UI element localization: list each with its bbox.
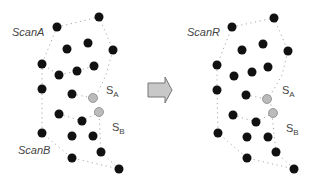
point-dot: [38, 60, 47, 69]
point-dot: [242, 91, 251, 100]
s-a-sub: A: [289, 90, 294, 99]
scan-a-boundary: [42, 17, 113, 96]
point-dot: [89, 132, 98, 141]
scan-r-label: ScanR: [187, 26, 220, 38]
point-dot: [68, 154, 77, 163]
scan-b-boundary: [42, 64, 119, 169]
s-b-sub: B: [293, 128, 298, 137]
point-dot: [229, 111, 238, 120]
point-dot: [243, 154, 252, 163]
shared-point-dot: [89, 94, 98, 103]
s-b-label-left: SB: [112, 121, 125, 133]
scan-a-label: ScanA: [12, 26, 44, 38]
s-a-sub: A: [113, 90, 118, 99]
point-dot: [259, 40, 268, 49]
point-dot: [264, 133, 273, 142]
point-dot: [78, 117, 87, 126]
point-dot: [243, 133, 252, 142]
point-dot: [270, 14, 279, 23]
point-dot: [252, 118, 261, 127]
point-dot: [213, 61, 222, 70]
point-dot: [290, 165, 299, 174]
s-b-label-right: SB: [286, 122, 299, 134]
point-dot: [272, 148, 281, 157]
s-a-label-left: SA: [106, 84, 119, 96]
point-dot: [68, 132, 77, 141]
point-dot: [90, 62, 99, 71]
point-dot: [230, 72, 239, 81]
point-dot: [95, 13, 104, 22]
point-dot: [284, 47, 293, 56]
arrow-right-icon: [148, 77, 172, 103]
point-dot: [115, 165, 124, 174]
point-dot: [264, 63, 273, 72]
shared-point-dot: [95, 108, 104, 117]
point-dot: [228, 23, 237, 32]
point-dot: [238, 46, 247, 55]
point-dot: [38, 129, 47, 138]
s-a-label-right: SA: [282, 84, 295, 96]
point-dot: [63, 45, 72, 54]
point-dot: [55, 110, 64, 119]
scan-b-label: ScanB: [18, 144, 50, 156]
point-dot: [68, 90, 77, 99]
s-b-sub: B: [119, 127, 124, 136]
point-dot: [213, 86, 222, 95]
point-dot: [73, 67, 82, 76]
point-dot: [248, 68, 257, 77]
point-dot: [38, 85, 47, 94]
shared-point-dot: [263, 95, 272, 104]
point-dot: [53, 23, 62, 32]
point-dot: [214, 129, 223, 138]
shared-point-dot: [269, 109, 278, 118]
point-dot: [97, 148, 106, 157]
point-dot: [84, 39, 93, 48]
point-dot: [109, 46, 118, 55]
point-dot: [55, 71, 64, 80]
